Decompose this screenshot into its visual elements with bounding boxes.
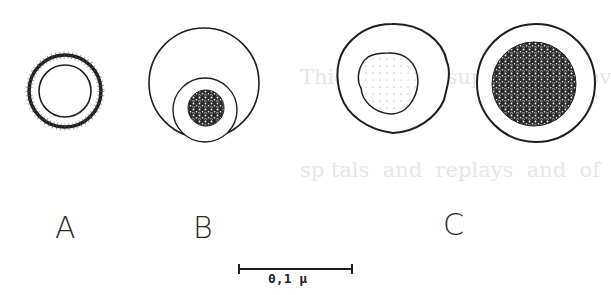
panel-label-b: B: [193, 210, 213, 245]
scale-bar-label: 0,1 μ: [268, 271, 307, 286]
particle-diagram: [0, 0, 611, 295]
particle-c-irregular: [337, 24, 449, 133]
panel-label-c: C: [443, 207, 464, 242]
panel-label-a: A: [55, 210, 76, 245]
particle-b: [149, 28, 259, 142]
particle-c-dense-core: [477, 24, 595, 142]
particle-a: [29, 55, 101, 127]
